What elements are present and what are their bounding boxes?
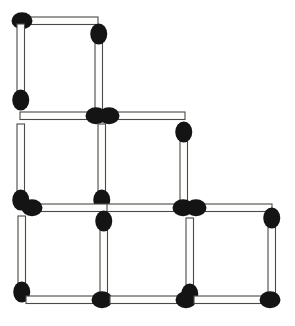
matchstick-drawing-surface: [0, 0, 295, 326]
row2-vertical-middle-match: [93, 124, 110, 211]
row4-vertical-middle-match: [95, 211, 112, 298]
bottom-horizontal-middle-match: [110, 291, 197, 308]
row2-horizontal-left-match: [20, 107, 107, 124]
row4-vertical-middle-head-icon: [95, 211, 112, 232]
row2-horizontal-right-head-icon: [99, 107, 120, 124]
upper-left-vertical-head-icon: [12, 90, 29, 111]
row2-vertical-right-match: [175, 122, 192, 209]
row3-horizontal-right-head-icon: [186, 199, 207, 216]
matches-layer: [12, 12, 281, 308]
row3-horizontal-left-head-icon: [22, 199, 43, 216]
row4-vertical-right-head-icon: [263, 208, 280, 229]
row2-horizontal-right-match: [99, 107, 186, 124]
bottom-horizontal-right-head-icon: [260, 291, 281, 308]
upper-right-vertical-match: [90, 24, 107, 111]
row3-horizontal-middle-match: [107, 199, 194, 216]
bottom-horizontal-left-head-icon: [92, 291, 113, 308]
bottom-horizontal-right-match: [194, 291, 281, 308]
upper-right-vertical-head-icon: [90, 24, 107, 45]
row3-horizontal-right-match: [186, 199, 273, 216]
matchstick-puzzle-figure: [0, 0, 295, 326]
row4-vertical-left-match: [13, 216, 30, 303]
bottom-horizontal-left-match: [26, 291, 113, 308]
row2-vertical-left-match: [12, 124, 29, 211]
bottom-horizontal-middle-head-icon: [176, 291, 197, 308]
upper-left-vertical-match: [12, 24, 29, 111]
row2-vertical-right-head-icon: [175, 122, 192, 143]
row4-vertical-right-match: [263, 208, 280, 295]
